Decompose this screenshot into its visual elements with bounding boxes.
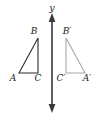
vertex-label-c: C — [35, 73, 42, 83]
vertex-label-a-prime: A′ — [82, 73, 92, 83]
y-axis-arrow-down-icon — [49, 104, 56, 113]
triangle-a-prime-b-prime-c-prime-outline — [66, 38, 85, 73]
y-axis-arrow-up-icon — [49, 13, 56, 22]
figure-canvas: y A B C A′ B′ C′ — [0, 0, 104, 116]
vertex-label-c-prime: C′ — [57, 73, 66, 83]
reflection-diagram: y A B C A′ B′ C′ — [0, 0, 104, 116]
triangle-abc — [19, 38, 38, 73]
y-axis — [49, 13, 56, 113]
vertex-label-b-prime: B′ — [62, 26, 72, 36]
y-axis-label: y — [48, 2, 55, 13]
triangle-a-prime-b-prime-c-prime — [66, 38, 85, 73]
triangle-abc-outline — [19, 38, 38, 73]
vertex-label-a: A — [9, 73, 17, 83]
vertex-label-b: B — [30, 26, 38, 36]
